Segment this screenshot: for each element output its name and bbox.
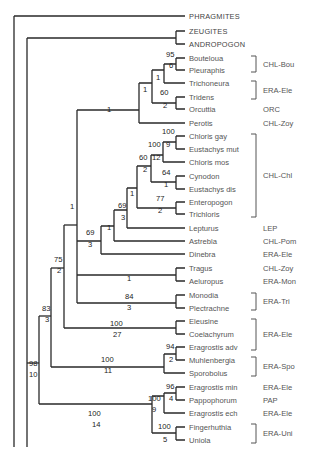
support-value: 10	[29, 370, 37, 379]
support-value: 12	[152, 153, 160, 162]
taxon-label: Eustachys mut	[189, 145, 240, 154]
taxon-label: Eustachys dis	[189, 185, 236, 194]
support-value: 60	[160, 88, 168, 97]
clade-bracket	[251, 293, 256, 310]
taxon-label: Tragus	[189, 264, 213, 273]
taxon-label: Chloris mos	[189, 158, 229, 167]
leaf-labels: PHRAGMITESZEUGITESANDROPOGONBoutelouaPle…	[189, 12, 245, 445]
taxon-label: PHRAGMITES	[189, 12, 240, 21]
support-value: 100	[162, 127, 175, 136]
taxon-label: Orcuttia	[189, 105, 216, 114]
support-value: 96	[166, 382, 174, 391]
clade-group-label: LEP	[263, 224, 277, 233]
clade-bracket	[251, 134, 256, 217]
support-value: 2	[163, 101, 167, 110]
clade-bracket	[251, 319, 256, 350]
clade-group-label: ERA-Ele	[263, 409, 292, 418]
support-value: 3	[88, 240, 92, 249]
clade-group-label: CHL-Pom	[263, 237, 296, 246]
clade-group-label: CHL-Zoy	[263, 264, 294, 273]
support-value: 100	[88, 409, 101, 418]
clade-bracket	[251, 56, 256, 72]
taxon-label: Coelachyrum	[189, 330, 234, 339]
taxon-label: Sporobolus	[189, 369, 228, 378]
support-value: 3	[127, 303, 131, 312]
phylogenetic-tree: PHRAGMITESZEUGITESANDROPOGONBoutelouaPle…	[0, 0, 312, 455]
taxon-label: Eragrostis min	[189, 383, 238, 392]
clade-group-label: ERA-Ele	[263, 86, 292, 95]
support-value: 2	[158, 206, 162, 215]
support-values: 9561160211009100126026411772693169311843…	[29, 50, 175, 444]
clade-bracket	[251, 424, 256, 443]
clade-group-label: ERA-Uni	[263, 429, 293, 438]
support-value: 9	[152, 405, 156, 414]
taxon-label: Monodia	[189, 291, 219, 300]
taxon-label: Uniola	[189, 436, 211, 445]
taxon-label: Trichoneura	[189, 79, 230, 88]
taxon-label: ZEUGITES	[189, 27, 228, 36]
support-value: 1	[156, 73, 160, 82]
support-value: 2	[143, 165, 147, 174]
clade-group-label: ERA-Mon	[263, 277, 296, 286]
support-value: 60	[139, 153, 147, 162]
taxon-label: Tridens	[189, 93, 214, 102]
support-value: 1	[130, 189, 134, 198]
support-value: 14	[92, 420, 100, 429]
taxon-label: Aeluropus	[189, 277, 223, 286]
clade-group-label: ERA-Ele	[263, 383, 292, 392]
support-value: 95	[166, 50, 174, 59]
support-value: 5	[163, 435, 167, 444]
clade-group-label: ERA-Ele	[263, 330, 292, 339]
support-value: 1	[143, 85, 147, 94]
clade-group-label: CHL-Bou	[263, 60, 294, 69]
support-value: 75	[54, 255, 62, 264]
support-value: 9	[166, 140, 170, 149]
clade-group-label: ERA-Tri	[263, 297, 290, 306]
taxon-label: Chloris gay	[189, 132, 227, 141]
support-value: 94	[166, 342, 174, 351]
support-value: 6	[169, 61, 173, 70]
support-value: 98	[29, 359, 37, 368]
clade-group-label: PAP	[263, 396, 278, 405]
clade-bracket	[251, 357, 256, 376]
taxon-label: Eleusine	[189, 317, 218, 326]
taxon-label: Plectrachne	[189, 304, 229, 313]
support-value: 64	[162, 168, 170, 177]
taxon-label: Eragrostis ech	[189, 409, 238, 418]
taxon-label: ANDROPOGON	[189, 40, 245, 49]
support-value: 83	[42, 304, 50, 313]
support-value: 100	[101, 355, 114, 364]
taxon-label: Dinebra	[189, 250, 216, 259]
support-value: 100	[110, 319, 123, 328]
taxon-label: Pappophorum	[189, 396, 237, 405]
taxon-label: Lepturus	[189, 224, 219, 233]
support-value: 27	[113, 330, 121, 339]
support-value: 1	[70, 202, 74, 211]
taxon-label: Cynodon	[189, 172, 219, 181]
support-value: 100	[158, 422, 171, 431]
taxon-label: Perotis	[189, 119, 213, 128]
taxon-label: Eragrostis adv	[189, 343, 238, 352]
support-value: 2	[57, 266, 61, 275]
support-value: 1	[127, 274, 131, 283]
support-value: 69	[118, 201, 126, 210]
support-value: 1	[107, 223, 111, 232]
clade-bracket	[251, 81, 256, 99]
clade-group-label: ORC	[263, 105, 280, 114]
support-value: 69	[86, 228, 94, 237]
taxon-label: Muhlenbergia	[189, 356, 236, 365]
taxon-label: Enteropogon	[189, 198, 233, 207]
support-value: 84	[125, 292, 133, 301]
clade-group-label: ERA-Spo	[263, 362, 295, 371]
support-value: 11	[104, 366, 112, 375]
taxon-label: Pleuraphis	[189, 66, 225, 75]
support-value: 1	[107, 105, 111, 114]
support-value: 2	[169, 355, 173, 364]
support-value: 1	[164, 180, 168, 189]
taxon-label: Astrebla	[189, 237, 218, 246]
support-value: 3	[121, 213, 125, 222]
support-value: 3	[45, 315, 49, 324]
clade-group-label: ERA-Ele	[263, 250, 292, 259]
support-value: 4	[169, 394, 173, 403]
support-value: 100	[148, 394, 161, 403]
